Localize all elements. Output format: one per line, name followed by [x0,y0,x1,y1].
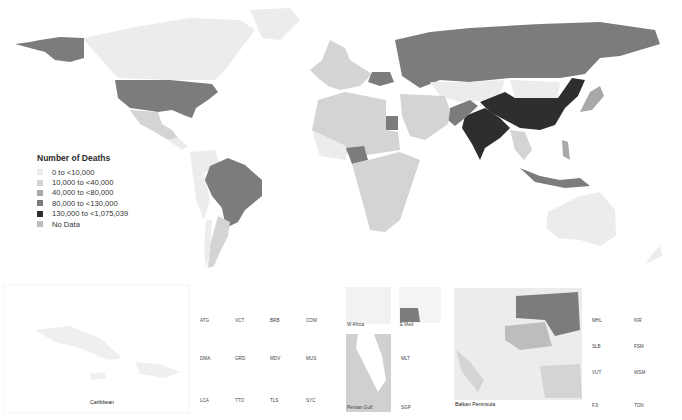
country-indonesia[interactable] [520,168,590,188]
legend-item: No Data [37,219,128,229]
inset-label-syc: SYC [306,398,315,403]
country-japan[interactable] [580,86,604,112]
inset-label-fsm: FSM [634,344,644,349]
inset-label-mhl: MHL [592,318,602,323]
legend-swatch [37,211,43,217]
country-russia[interactable] [395,22,660,88]
legend-item: 40,000 to <80,000 [37,188,128,198]
legend-swatch [37,221,43,227]
inset-label-lca: LCA [200,398,209,403]
legend-label: 10,000 to <40,000 [52,178,113,187]
inset-label-mdv: MDV [270,356,280,361]
inset-label-persian-gulf: Persian Gulf [347,405,372,410]
region-central-africa[interactable] [352,152,420,232]
inset-label-kir: KIR [634,318,642,323]
country-mongolia[interactable] [510,80,560,98]
inset-label-grd: GRD [235,356,245,361]
inset-label-tls: TLS [270,398,278,403]
inset-label-mlt: MLT [401,356,410,361]
inset-label-slb: SLB [592,344,601,349]
region-europe[interactable] [310,40,372,90]
inset-label-e-med: E Med [400,322,413,327]
inset-balkan-turkey[interactable] [540,364,582,398]
inset-label-mus: MUS [306,356,316,361]
country-egypt[interactable] [386,116,398,130]
inset-label-tto: TTO [235,398,244,403]
legend-title: Number of Deaths [37,153,128,163]
inset-w-africa [346,287,391,324]
inset-label-w-africa: W Africa [347,322,364,327]
country-brazil[interactable] [205,158,262,228]
region-middle-east[interactable] [400,94,450,140]
country-greenland[interactable] [250,8,300,40]
inset-label-dma: DMA [200,356,210,361]
legend-item: 0 to <10,000 [37,167,128,177]
country-mexico[interactable] [130,110,178,140]
country-new-zealand[interactable] [646,246,662,264]
country-ukraine[interactable] [368,72,394,86]
country-usa[interactable] [115,80,218,118]
legend-label: 130,000 to <1,075,039 [52,209,128,218]
country-alaska[interactable] [15,37,84,62]
inset-e-med-country[interactable] [400,308,420,322]
inset-label-fji: FJI [592,403,598,408]
region-southeast-asia[interactable] [510,130,532,160]
country-central-america[interactable] [168,138,188,150]
legend-swatch [37,180,43,186]
inset-label-vut: VUT [592,370,601,375]
legend-label: 0 to <10,000 [52,168,94,177]
legend-swatch [37,190,43,196]
country-canada[interactable] [84,18,255,80]
inset-label-ton: TON [634,403,644,408]
inset-label-balkan: Balkan Peninsula [455,401,495,407]
legend-item: 80,000 to <130,000 [37,198,128,208]
country-philippines[interactable] [562,140,570,160]
legend-label: 80,000 to <130,000 [52,199,118,208]
legend-item: 130,000 to <1,075,039 [37,209,128,219]
inset-label-atg: ATG [200,318,209,323]
inset-label-sgp: SGP [401,405,411,410]
inset-label-brb: BRB [270,318,279,323]
legend-label: 40,000 to <80,000 [52,188,113,197]
inset-label-com: COM [306,318,317,323]
legend-item: 10,000 to <40,000 [37,177,128,187]
legend-label: No Data [52,220,80,229]
inset-label-caribbean: Caribbean [90,399,114,405]
inset-label-vct: VCT [235,318,244,323]
legend-swatch [37,169,43,175]
inset-label-wsm: WSM [634,370,645,375]
country-australia[interactable] [546,192,616,246]
legend-swatch [37,200,43,206]
legend: Number of Deaths 0 to <10,00010,000 to <… [37,153,128,229]
